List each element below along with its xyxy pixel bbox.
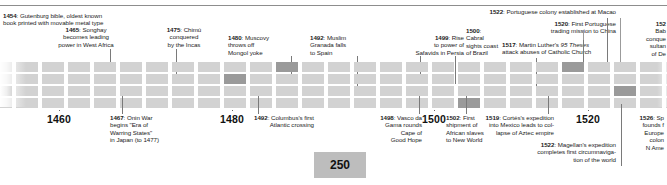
event-note-1522-magellan: 1522: Magellan's expeditioncompletes fir… xyxy=(398,141,616,163)
leader-line-1519 xyxy=(548,96,549,114)
timeline-cell xyxy=(172,74,194,84)
timeline-cell xyxy=(94,86,116,96)
timeline-cell xyxy=(198,62,220,72)
timeline-cell xyxy=(484,86,506,96)
timeline-cell xyxy=(94,62,116,72)
column-divider-top-right xyxy=(620,18,621,62)
timeline-cell xyxy=(302,98,324,108)
timeline-cell xyxy=(432,74,454,84)
column-divider-bottom-right xyxy=(621,104,622,166)
timeline-cell xyxy=(146,98,168,108)
timeline-cell xyxy=(614,74,636,84)
event-note-1519: 1519: Cortés's expeditioninto Mexico lea… xyxy=(404,114,554,136)
event-note-1465: 1465: Songhaybecomes leadingpower in Wes… xyxy=(38,26,134,48)
timeline-cell-highlighted xyxy=(562,62,584,72)
timeline-cell xyxy=(250,62,272,72)
timeline-cell xyxy=(432,62,454,72)
timeline-cell xyxy=(328,86,350,96)
timeline-cell xyxy=(42,86,64,96)
timeline-cell-highlighted xyxy=(614,86,636,96)
timeline-cell xyxy=(484,74,506,84)
timeline-cell-highlighted xyxy=(0,86,12,96)
year-label-1520: 1520 xyxy=(558,113,618,125)
timeline-cell xyxy=(146,62,168,72)
timeline-cell xyxy=(328,62,350,72)
timeline-cell xyxy=(68,62,90,72)
timeline-cell xyxy=(354,62,376,72)
timeline-cell xyxy=(68,98,90,108)
timeline-row xyxy=(0,62,667,72)
timeline-cell xyxy=(42,98,64,108)
timeline-cell xyxy=(536,86,558,96)
timeline-cell xyxy=(16,74,38,84)
event-note-1526-babur: 152Babconquesultanof De xyxy=(628,20,666,57)
timeline-cell xyxy=(198,74,220,84)
timeline-cell xyxy=(406,62,428,72)
timeline-cell xyxy=(640,62,662,72)
timeline-cell xyxy=(380,74,402,84)
timeline-cell xyxy=(276,98,298,108)
timeline-cell xyxy=(172,62,194,72)
timeline-cell xyxy=(458,86,480,96)
timeline-cell xyxy=(640,98,662,108)
event-note-1475: 1475: Chimúconqueredby the Incas xyxy=(148,26,220,48)
timeline-cell xyxy=(510,86,532,96)
timeline-cell xyxy=(224,62,246,72)
timeline-cell-highlighted xyxy=(458,98,480,108)
timeline-figure: 1454: Gutenburg bible, oldest knownbook … xyxy=(0,0,667,185)
timeline-cell xyxy=(250,98,272,108)
timeline-cell xyxy=(588,86,610,96)
timeline-cell xyxy=(198,98,220,108)
timeline-cell xyxy=(354,86,376,96)
event-note-1522-macao: 1522: Portuguese colony established at M… xyxy=(330,8,616,15)
event-note-1520: 1520: First Portuguesetrading mission to… xyxy=(430,20,616,35)
timeline-cell xyxy=(120,98,142,108)
timeline-cell xyxy=(562,86,584,96)
timeline-cell xyxy=(120,62,142,72)
timeline-cell xyxy=(406,98,428,108)
timeline-cell xyxy=(458,74,480,84)
timeline-cell xyxy=(146,74,168,84)
timeline-cell xyxy=(16,98,38,108)
event-note-1492-granada: 1492: MuslimGranada fallsto Spain xyxy=(310,34,380,56)
top-divider-rule xyxy=(0,5,667,6)
timeline-cell xyxy=(354,74,376,84)
timeline-cell xyxy=(68,86,90,96)
timeline-cell xyxy=(68,74,90,84)
timeline-cell xyxy=(16,62,38,72)
timeline-band xyxy=(0,62,667,107)
timeline-cell xyxy=(250,74,272,84)
leader-line-1522-macao xyxy=(607,18,608,62)
timeline-cell xyxy=(302,62,324,72)
timeline-cell xyxy=(562,98,584,108)
timeline-cell xyxy=(432,98,454,108)
timeline-cell xyxy=(536,98,558,108)
timeline-cell xyxy=(250,86,272,96)
event-note-1499: 1499: Riseto power ofSafavids in Persia xyxy=(372,34,464,56)
timeline-cell xyxy=(16,86,38,96)
event-note-1526-spain: 1526: Spfounds fEuropecolonN Ame xyxy=(624,114,664,151)
timeline-cell xyxy=(302,86,324,96)
timeline-cell-highlighted xyxy=(224,74,246,84)
timeline-cell xyxy=(640,86,662,96)
timeline-cell xyxy=(94,74,116,84)
timeline-cell xyxy=(172,86,194,96)
timeline-cell xyxy=(562,74,584,84)
timeline-cell xyxy=(120,86,142,96)
timeline-cell xyxy=(614,62,636,72)
timeline-cell xyxy=(0,62,12,72)
timeline-cell xyxy=(224,86,246,96)
timeline-cell xyxy=(510,62,532,72)
timeline-cell xyxy=(146,86,168,96)
timeline-cell xyxy=(120,74,142,84)
year-tick-1460 xyxy=(59,110,60,111)
year-label-1460: 1460 xyxy=(29,113,89,125)
timeline-cell xyxy=(0,98,12,108)
year-tick-1500 xyxy=(434,110,435,111)
timeline-cell xyxy=(42,74,64,84)
timeline-cell xyxy=(484,98,506,108)
scale-badge: 250 xyxy=(314,152,366,178)
timeline-cell xyxy=(510,74,532,84)
timeline-cell-highlighted xyxy=(276,62,298,72)
timeline-cell xyxy=(328,74,350,84)
